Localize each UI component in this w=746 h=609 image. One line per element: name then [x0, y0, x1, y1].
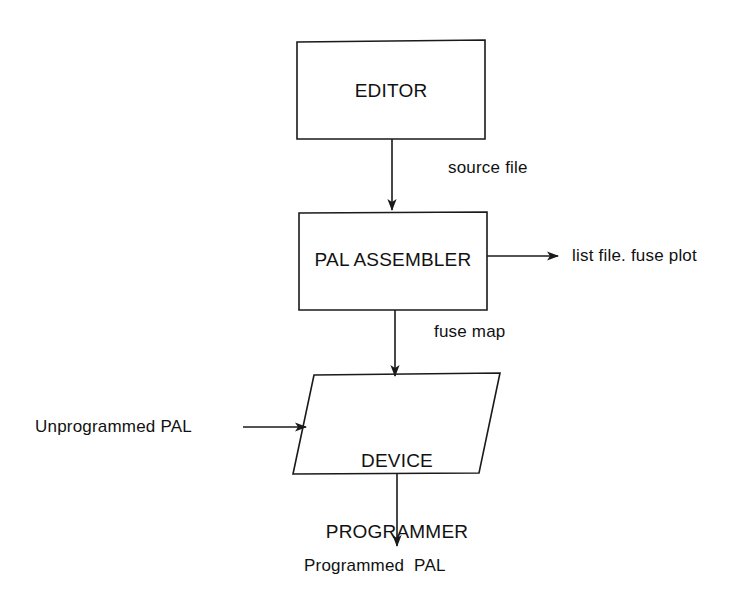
device-programmer-label-line1: DEVICE	[303, 449, 491, 473]
editor-node-label: EDITOR	[297, 80, 485, 102]
device-programmer-label-line2: PROGRAMMER	[303, 520, 491, 544]
edge-label-programmed-pal: Programmed PAL	[304, 556, 446, 576]
edge-label-fuse-map: fuse map	[434, 322, 506, 342]
edge-label-list-file-fuse-plot: list file. fuse plot	[572, 246, 697, 266]
pal-assembler-node-label: PAL ASSEMBLER	[299, 249, 487, 271]
edge-label-unprogrammed-pal: Unprogrammed PAL	[35, 417, 192, 437]
edge-label-source-file: source file	[448, 158, 528, 178]
diagram-canvas: EDITOR PAL ASSEMBLER DEVICE PROGRAMMER s…	[0, 0, 746, 609]
